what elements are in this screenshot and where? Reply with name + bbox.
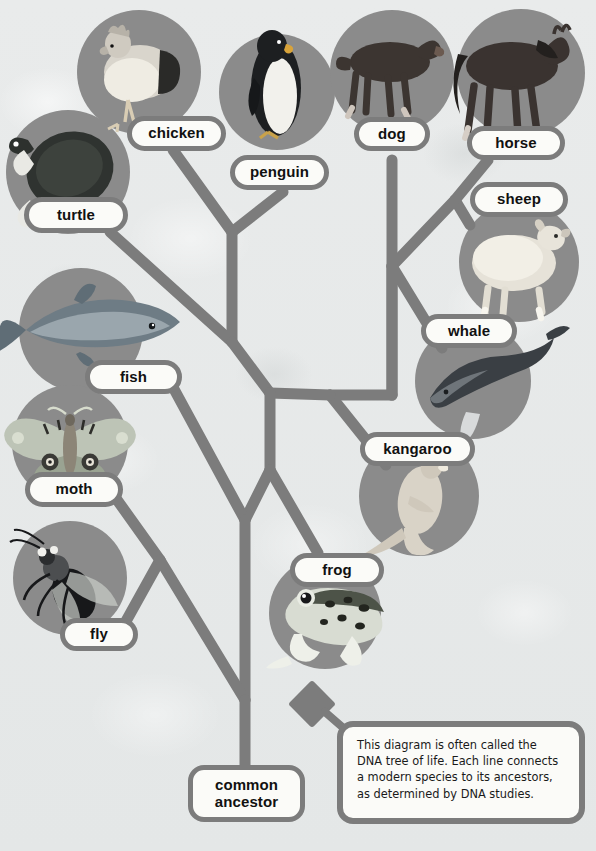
label-chicken[interactable]: chicken [127,116,226,151]
label-turtle-text: turtle [57,207,95,223]
label-fly-text: fly [90,626,108,642]
art-dog [336,40,444,118]
art-penguin [248,30,301,138]
label-sheep[interactable]: sheep [470,182,568,217]
label-penguin-text: penguin [250,164,309,180]
callout-text: This diagram is often called the DNA tre… [357,737,566,802]
label-turtle[interactable]: turtle [24,197,128,233]
label-moth[interactable]: moth [25,472,123,507]
label-chicken-text: chicken [148,125,205,141]
label-dog[interactable]: dog [354,117,430,151]
label-common-ancestor-line1: common [215,777,278,793]
label-fish-text: fish [120,369,147,385]
label-kangaroo[interactable]: kangaroo [360,432,475,466]
label-frog-text: frog [322,562,352,578]
label-whale[interactable]: whale [421,314,517,348]
label-frog[interactable]: frog [290,553,384,587]
label-moth-text: moth [55,481,92,497]
label-dog-text: dog [378,126,406,142]
label-horse-text: horse [495,135,536,151]
art-sheep [472,219,570,318]
art-horse [453,25,570,140]
label-whale-text: whale [448,323,490,339]
label-horse[interactable]: horse [467,126,565,160]
label-fly[interactable]: fly [60,618,138,651]
label-common-ancestor-line2: ancestor [215,794,278,810]
label-sheep-text: sheep [497,191,541,207]
art-fish [0,284,180,367]
art-frog [266,588,384,669]
diagram-canvas: turtle chicken penguin dog horse sheep w… [0,0,596,851]
label-common-ancestor[interactable]: common ancestor [188,765,305,822]
callout-box: This diagram is often called the DNA tre… [337,721,585,824]
label-penguin[interactable]: penguin [230,155,329,190]
label-fish[interactable]: fish [85,360,182,394]
label-kangaroo-text: kangaroo [383,441,451,457]
